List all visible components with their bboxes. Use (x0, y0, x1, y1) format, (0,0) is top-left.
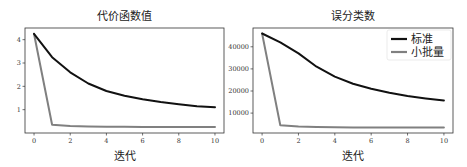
x-tick-label: 4 (333, 137, 337, 145)
legend-label: 小批量 (411, 45, 444, 59)
x-tick-label: 0 (260, 137, 264, 145)
y-tick-label: 2 (17, 83, 21, 91)
chart-figure: 代价函数值迭代02468101234误分类数迭代0246810100002000… (0, 0, 467, 167)
x-axis-label: 迭代 (114, 150, 136, 163)
x-tick-label: 8 (405, 137, 409, 145)
x-tick-label: 6 (141, 137, 145, 145)
x-axis-label: 迭代 (342, 150, 364, 163)
x-tick-label: 4 (104, 137, 108, 145)
y-tick-label: 1 (17, 106, 21, 114)
x-tick-label: 2 (296, 137, 300, 145)
chart-title: 误分类数 (331, 9, 375, 23)
figure: 代价函数值迭代02468101234误分类数迭代0246810100002000… (0, 0, 467, 167)
subplot-1: 代价函数值迭代02468101234 (17, 10, 224, 163)
chart-title: 代价函数值 (97, 10, 152, 23)
x-tick-label: 0 (32, 137, 36, 145)
y-tick-label: 10000 (228, 109, 249, 117)
legend-label: 标准 (411, 32, 433, 46)
x-tick-label: 8 (177, 137, 181, 145)
y-tick-label: 4 (17, 36, 21, 44)
plot-frame (25, 28, 224, 133)
x-tick-label: 10 (211, 137, 219, 145)
x-tick-label: 2 (68, 137, 72, 145)
legend: 标准小批量 (387, 30, 451, 60)
subplot-2: 误分类数迭代024681010000200003000040000标准小批量 (228, 9, 453, 163)
y-tick-label: 3 (17, 59, 21, 67)
x-tick-label: 10 (440, 137, 448, 145)
series-line-minibatch (34, 34, 215, 127)
y-tick-label: 40000 (228, 43, 249, 51)
x-tick-label: 6 (369, 137, 373, 145)
y-tick-label: 20000 (228, 87, 249, 95)
series-line-standard (34, 34, 215, 108)
y-tick-label: 30000 (228, 65, 249, 73)
